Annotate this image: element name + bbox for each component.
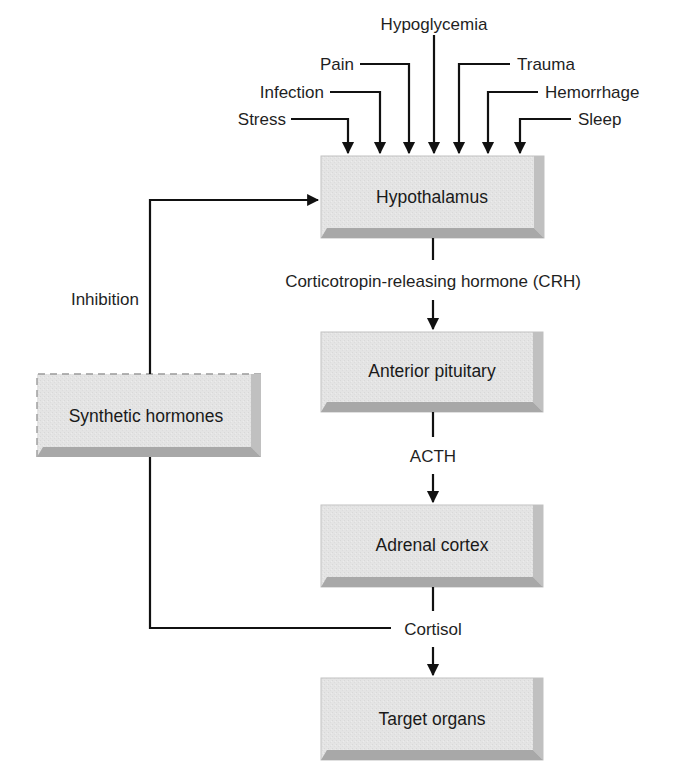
box-label-adrenal-cortex: Adrenal cortex (376, 535, 489, 555)
box-bevel-bottom (321, 750, 543, 760)
box-label-synthetic-hormones: Synthetic hormones (69, 406, 224, 426)
stimulus-label-infection: Infection (260, 83, 324, 102)
box-adrenal-cortex: Adrenal cortex (321, 505, 543, 587)
stimulus-label-hypoglycemia: Hypoglycemia (381, 15, 488, 34)
box-label-anterior-pituitary: Anterior pituitary (368, 361, 496, 381)
box-bevel-bottom (37, 447, 261, 457)
stimulus-arrow-pain (360, 64, 409, 153)
stimulus-arrow-hemorrhage (488, 92, 538, 153)
box-bevel-right (533, 332, 543, 412)
box-synthetic-hormones: Synthetic hormones (37, 374, 261, 457)
edge-label-crh: Corticotropin-releasing hormone (CRH) (285, 272, 581, 291)
stimulus-label-sleep: Sleep (578, 110, 621, 129)
box-bevel-bottom (321, 402, 543, 412)
box-bevel-right (533, 678, 543, 760)
edge-label-inhibition: Inhibition (71, 290, 139, 309)
box-label-target-organs: Target organs (378, 709, 485, 729)
box-bevel-bottom (321, 577, 543, 587)
box-target-organs: Target organs (321, 678, 543, 760)
stimulus-arrow-infection (330, 92, 380, 153)
stimuli-group: Stress Infection Pain Hypoglycemia Traum… (238, 15, 640, 153)
box-bevel-right (533, 505, 543, 587)
stimulus-label-trauma: Trauma (517, 55, 575, 74)
edge-label-acth: ACTH (410, 447, 456, 466)
box-bevel-right (534, 156, 544, 238)
stimulus-arrow-sleep (520, 119, 571, 153)
stimulus-arrow-trauma (459, 64, 510, 153)
hpa-axis-diagram: Stress Infection Pain Hypoglycemia Traum… (0, 0, 686, 779)
box-bevel-right (251, 374, 261, 457)
edge-label-cortisol: Cortisol (404, 620, 462, 639)
box-anterior-pituitary: Anterior pituitary (321, 332, 543, 412)
stimulus-label-hemorrhage: Hemorrhage (545, 83, 640, 102)
stimulus-label-pain: Pain (320, 55, 354, 74)
box-hypothalamus: Hypothalamus (321, 156, 544, 238)
stimulus-arrow-stress (291, 119, 348, 153)
box-label-hypothalamus: Hypothalamus (376, 187, 488, 207)
stimulus-label-stress: Stress (238, 110, 286, 129)
box-bevel-bottom (321, 228, 544, 238)
